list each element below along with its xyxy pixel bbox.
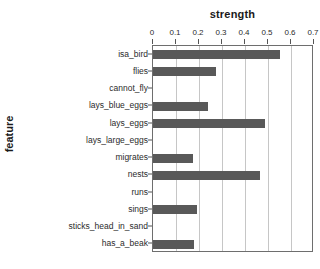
bar-row[interactable] [153, 187, 312, 199]
bar-row[interactable] [153, 66, 312, 78]
bar-chart-figure: strength feature 00.10.20.30.40.50.60.7 … [0, 0, 320, 269]
y-axis-tick-labels: isa_birdfliescannot_flylays_blue_eggslay… [0, 45, 148, 252]
x-tick-mark [290, 39, 291, 44]
x-tick-label: 0.1 [169, 28, 180, 37]
x-axis-tick-labels: 00.10.20.30.40.50.60.7 [152, 28, 313, 40]
x-tick-label: 0 [150, 28, 154, 37]
bar-row[interactable] [153, 169, 312, 181]
y-tick-label: runs [131, 187, 148, 197]
bar-row[interactable] [153, 238, 312, 250]
bar-row[interactable] [153, 49, 312, 61]
bar[interactable] [153, 154, 193, 163]
bar-row[interactable] [153, 204, 312, 216]
bar-row[interactable] [153, 221, 312, 233]
chart-title: strength [152, 8, 313, 20]
bar[interactable] [153, 205, 197, 214]
x-tick-mark [244, 39, 245, 44]
y-tick-label: flies [133, 66, 148, 76]
y-tick-label: has_a_beak [102, 238, 148, 248]
bar[interactable] [153, 102, 208, 111]
bar-row[interactable] [153, 118, 312, 130]
bar-row[interactable] [153, 83, 312, 95]
x-tick-mark [313, 39, 314, 44]
x-tick-label: 0.3 [215, 28, 226, 37]
y-tick-label: isa_bird [118, 49, 148, 59]
bar[interactable] [153, 171, 260, 180]
x-tick-mark [152, 39, 153, 44]
bar[interactable] [153, 50, 280, 59]
y-tick-label: nests [128, 169, 148, 179]
y-tick-label: lays_large_eggs [86, 135, 148, 145]
y-tick-label: migrates [115, 152, 148, 162]
x-tick-mark [267, 39, 268, 44]
y-tick-label: sticks_head_in_sand [69, 221, 148, 231]
x-tick-mark [221, 39, 222, 44]
x-tick-label: 0.5 [261, 28, 272, 37]
bar-row[interactable] [153, 135, 312, 147]
x-tick-mark [198, 39, 199, 44]
bar[interactable] [153, 119, 265, 128]
y-tick-label: cannot_fly [109, 83, 148, 93]
y-tick-label: lays_eggs [110, 118, 148, 128]
y-tick-label: lays_blue_eggs [89, 100, 148, 110]
x-tick-label: 0.6 [284, 28, 295, 37]
bar-row[interactable] [153, 152, 312, 164]
bar[interactable] [153, 240, 194, 249]
x-tick-label: 0.7 [307, 28, 318, 37]
x-tick-label: 0.4 [238, 28, 249, 37]
x-tick-label: 0.2 [192, 28, 203, 37]
plot-area [152, 45, 313, 252]
y-tick-label: sings [128, 204, 148, 214]
bar[interactable] [153, 67, 216, 76]
bar-row[interactable] [153, 100, 312, 112]
x-tick-mark [175, 39, 176, 44]
